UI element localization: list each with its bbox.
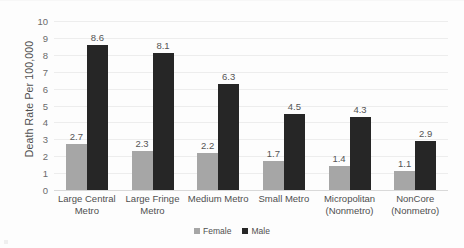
category-group: 1.44.3 — [317, 21, 383, 190]
y-axis-tick-label: 5 — [43, 100, 48, 111]
x-axis-category-label: Large CentralMetro — [54, 193, 120, 216]
x-axis-category-line: (Nonmetro) — [318, 205, 382, 217]
y-axis-tick-label: 10 — [37, 16, 48, 27]
x-axis-category-line: Large Fringe — [121, 193, 185, 205]
bar-male[interactable]: 8.6 — [87, 45, 108, 190]
bar-value-label: 2.9 — [419, 128, 432, 139]
legend-swatch-icon — [242, 228, 248, 234]
y-axis-tick-label: 4 — [43, 117, 48, 128]
y-axis-tick-label: 1 — [43, 168, 48, 179]
category-group: 1.12.9 — [382, 21, 448, 190]
x-axis-category-line: Medium Metro — [186, 193, 250, 205]
axis-baseline — [54, 190, 448, 191]
bar-female[interactable]: 1.7 — [263, 161, 284, 190]
bar-value-label: 1.7 — [267, 148, 280, 159]
scan-artifact — [0, 0, 464, 1]
scan-artifact — [4, 240, 8, 244]
x-axis-category-label: NonCore(Nonmetro) — [382, 193, 448, 216]
bar-chart: Death Rate Per 100,000 109876543210 2.78… — [0, 0, 464, 248]
bar-female[interactable]: 1.4 — [329, 166, 350, 190]
bar-male[interactable]: 8.1 — [153, 53, 174, 190]
legend-label: Female — [203, 226, 231, 236]
plot-area: 109876543210 2.78.62.38.12.26.31.74.51.4… — [54, 21, 448, 190]
bar-male[interactable]: 4.5 — [284, 114, 305, 190]
x-axis-category-line: Metro — [121, 205, 185, 217]
bar-female[interactable]: 1.1 — [394, 171, 415, 190]
category-group: 2.26.3 — [185, 21, 251, 190]
bar-value-label: 2.7 — [70, 131, 83, 142]
bar-female[interactable]: 2.2 — [197, 153, 218, 190]
category-group: 1.74.5 — [251, 21, 317, 190]
y-axis-tick-label: 9 — [43, 32, 48, 43]
x-axis-labels: Large CentralMetroLarge FringeMetroMediu… — [54, 193, 448, 216]
y-axis-tick-label: 8 — [43, 49, 48, 60]
bars-layer: 2.78.62.38.12.26.31.74.51.44.31.12.9 — [54, 21, 448, 190]
category-group: 2.38.1 — [120, 21, 186, 190]
x-axis-category-label: Medium Metro — [185, 193, 251, 216]
y-axis-tick-label: 7 — [43, 66, 48, 77]
bar-value-label: 1.4 — [332, 153, 345, 164]
y-axis-tick-label: 2 — [43, 151, 48, 162]
bar-value-label: 1.1 — [398, 158, 411, 169]
y-axis-title: Death Rate Per 100,000 — [23, 9, 35, 189]
legend-item-female[interactable]: Female — [194, 226, 231, 236]
bar-value-label: 4.3 — [353, 104, 366, 115]
bar-female[interactable]: 2.7 — [66, 144, 87, 190]
bar-value-label: 8.1 — [156, 40, 169, 51]
bar-female[interactable]: 2.3 — [132, 151, 153, 190]
y-axis-tick-label: 0 — [43, 185, 48, 196]
bar-value-label: 4.5 — [288, 101, 301, 112]
bar-value-label: 2.3 — [135, 138, 148, 149]
legend-swatch-icon — [194, 228, 200, 234]
legend-item-male[interactable]: Male — [242, 226, 269, 236]
y-axis-tick-label: 3 — [43, 134, 48, 145]
y-axis-tick-label: 6 — [43, 83, 48, 94]
bar-value-label: 6.3 — [222, 71, 235, 82]
x-axis-category-label: Small Metro — [251, 193, 317, 216]
x-axis-category-label: Large FringeMetro — [120, 193, 186, 216]
bar-male[interactable]: 4.3 — [350, 117, 371, 190]
x-axis-category-line: Large Central — [55, 193, 119, 205]
x-axis-category-line: Metro — [55, 205, 119, 217]
x-axis-category-line: Micropolitan — [318, 193, 382, 205]
bar-value-label: 2.2 — [201, 140, 214, 151]
category-group: 2.78.6 — [54, 21, 120, 190]
x-axis-category-line: (Nonmetro) — [383, 205, 447, 217]
bar-male[interactable]: 6.3 — [218, 84, 239, 190]
bar-male[interactable]: 2.9 — [415, 141, 436, 190]
x-axis-category-line: Small Metro — [252, 193, 316, 205]
bar-value-label: 8.6 — [91, 32, 104, 43]
chart-legend: FemaleMale — [0, 226, 464, 236]
x-axis-category-line: NonCore — [383, 193, 447, 205]
legend-label: Male — [251, 226, 269, 236]
x-axis-category-label: Micropolitan(Nonmetro) — [317, 193, 383, 216]
